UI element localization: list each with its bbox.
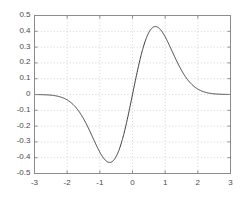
y-axis-tick-label: 0 [26,90,30,98]
x-axis-tick-label: -2 [52,179,82,187]
y-axis-tick-label: -0.4 [17,153,31,161]
x-axis-tick-label: -3 [20,179,50,187]
y-axis-tick-label: -0.5 [17,169,31,177]
plot-canvas [0,0,244,201]
x-axis-tick-label: -1 [85,179,115,187]
y-axis-tick-label: 0.3 [19,43,30,51]
x-axis-tick-label: 1 [150,179,180,187]
y-axis-tick-label: -0.2 [17,122,31,130]
y-axis-tick-label: 0.1 [19,74,30,82]
y-axis-tick-label: 0.2 [19,58,30,66]
chart-figure: -0.5-0.4-0.3-0.2-0.100.10.20.30.40.5-3-2… [0,0,244,201]
x-axis-tick-label: 2 [183,179,213,187]
y-axis-tick-label: 0.5 [19,11,30,19]
y-axis-tick-label: -0.1 [17,106,31,114]
y-axis-tick-label: -0.3 [17,137,31,145]
x-axis-tick-label: 3 [216,179,245,187]
x-axis-tick-label: 0 [118,179,148,187]
y-axis-tick-label: 0.4 [19,27,30,35]
